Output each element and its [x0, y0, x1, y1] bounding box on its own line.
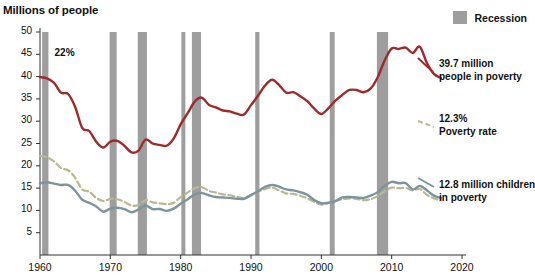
y-axis-tick-label: 45: [6, 47, 32, 58]
recession-band: [255, 32, 259, 255]
callout-people-line2: people in poverty: [439, 71, 522, 84]
y-axis-tick-label: 10: [6, 203, 32, 214]
y-axis-tick-label: 5: [6, 226, 32, 237]
y-axis-tick-label: 20: [6, 159, 32, 170]
x-axis-tick-label: 1960: [28, 261, 51, 273]
callout-rate-line2: Poverty rate: [439, 126, 497, 139]
y-axis-tick-label: 50: [6, 25, 32, 36]
x-axis-tick-label: 1990: [239, 261, 262, 273]
leader-line-rate: [418, 121, 434, 127]
y-axis-tick-label: 35: [6, 92, 32, 103]
recession-band: [110, 32, 117, 255]
y-axis-tick-label: 40: [6, 70, 32, 81]
callout-rate-line1: 12.3%: [439, 113, 497, 126]
y-axis-tick-label: 30: [6, 114, 32, 125]
x-axis-tick-label: 1980: [169, 261, 192, 273]
callout-poverty-rate: 12.3% Poverty rate: [439, 113, 497, 139]
annotation-poverty-rate-start: 22%: [55, 47, 75, 58]
callout-children-line2: in poverty: [439, 192, 535, 205]
callout-people-in-poverty: 39.7 million people in poverty: [439, 58, 522, 84]
x-axis-tick-label: 2020: [450, 261, 473, 273]
x-axis-tick-label: 1970: [99, 261, 122, 273]
recession-band: [42, 32, 48, 255]
y-axis-tick-label: 15: [6, 181, 32, 192]
callout-children-in-poverty: 12.8 million children in poverty: [439, 179, 535, 205]
callout-people-line1: 39.7 million: [439, 58, 522, 71]
recession-band: [181, 32, 185, 255]
callout-children-line1: 12.8 million children: [439, 179, 535, 192]
x-axis-tick-label: 2010: [380, 261, 403, 273]
recession-band: [330, 32, 335, 255]
y-axis-tick-label: 25: [6, 137, 32, 148]
recession-band: [192, 32, 201, 255]
poverty-chart: Millions of people Recession 51015202530…: [0, 0, 535, 276]
x-axis-tick-label: 2000: [310, 261, 333, 273]
